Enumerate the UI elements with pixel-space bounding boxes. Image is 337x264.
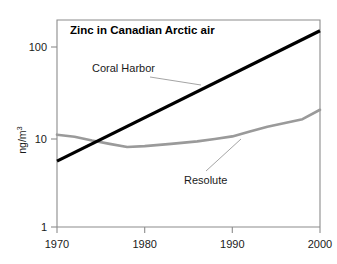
chart-figure: 100 10 1 1970 1980 1990 2000 ng/m3 Zinc …: [0, 0, 337, 264]
y-tick-label-100: 100: [29, 41, 47, 53]
coral-harbor-annotation: Coral Harbor: [92, 62, 155, 74]
x-tick-label-1970: 1970: [45, 238, 69, 250]
y-tick-label-10: 10: [35, 133, 47, 145]
svg-text:ng/m3: ng/m3: [15, 126, 28, 154]
resolute-annotation: Resolute: [184, 174, 227, 186]
x-tick-label-1980: 1980: [132, 238, 156, 250]
chart-title: Zinc in Canadian Arctic air: [70, 24, 215, 36]
x-tick-label-2000: 2000: [308, 238, 332, 250]
x-tick-label-1990: 1990: [220, 238, 244, 250]
y-axis-title: ng/m3: [15, 126, 28, 154]
y-axis-title-text: ng/m: [16, 130, 28, 154]
zinc-line-chart: 100 10 1 1970 1980 1990 2000 ng/m3 Zinc …: [0, 0, 337, 264]
y-axis-title-superscript: 3: [15, 126, 24, 130]
y-tick-label-1: 1: [41, 221, 47, 233]
